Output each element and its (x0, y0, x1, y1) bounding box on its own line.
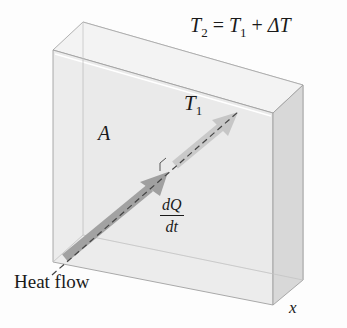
t1-label: T1 (184, 91, 202, 119)
heat-rate-fraction: dQ dt (160, 197, 184, 235)
heat-flow-label: Heat flow (14, 271, 89, 293)
slab-side-face (273, 85, 303, 305)
t2-symbol: T (190, 14, 201, 36)
equals-sign: = (208, 14, 229, 36)
t1-subscript: 1 (196, 103, 203, 118)
fraction-numerator: dQ (160, 197, 184, 216)
t1-symbol: T (184, 91, 196, 115)
temperature-equation: T2 = T1 + ΔT (190, 14, 291, 41)
plus-sign: + (247, 14, 268, 36)
delta-t: ΔT (268, 14, 291, 36)
fraction-denominator: dt (160, 216, 184, 235)
x-axis-label: x (289, 298, 297, 318)
area-label: A (98, 122, 110, 145)
t1-symbol-eq: T (229, 14, 240, 36)
